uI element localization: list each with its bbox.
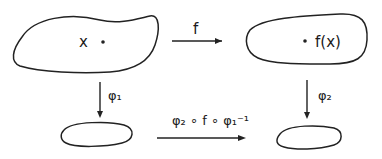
label-composite: φ₂ ∘ f ∘ φ₁⁻¹	[172, 113, 249, 128]
label-phi1: φ₁	[108, 88, 122, 103]
label-f: f	[193, 20, 198, 38]
label-phi2: φ₂	[318, 88, 332, 103]
domain-blob-right	[246, 14, 367, 64]
point-fx	[303, 39, 307, 43]
point-x	[101, 40, 105, 44]
label-fx: f(x)	[315, 33, 341, 51]
chart-blob-right	[277, 126, 341, 149]
label-x: x	[79, 33, 88, 51]
chart-blob-left	[61, 122, 132, 146]
commutative-diagram	[0, 0, 382, 159]
